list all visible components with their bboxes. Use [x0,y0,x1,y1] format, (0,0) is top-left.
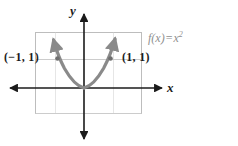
parabola-right-branch [84,39,115,88]
point-label-one-one: (1, 1) [122,51,150,63]
parabola-left-branch [54,40,85,88]
grid-box [36,33,142,114]
point-marker-minus-one-one [55,56,60,61]
grid-lines [36,33,142,114]
graph-canvas [0,0,238,146]
function-equation-label: f(x)=x2 [148,31,183,44]
function-name: f(x) [148,31,165,45]
x-axis-label: x [167,81,174,94]
y-axis-label: y [70,4,76,17]
parabola-figure: y x (−1, 1) (1, 1) f(x)=x2 [0,0,238,146]
point-label-minus-one-one: (−1, 1) [4,51,39,63]
function-exponent: 2 [179,30,183,39]
point-marker-one-one [108,56,113,61]
